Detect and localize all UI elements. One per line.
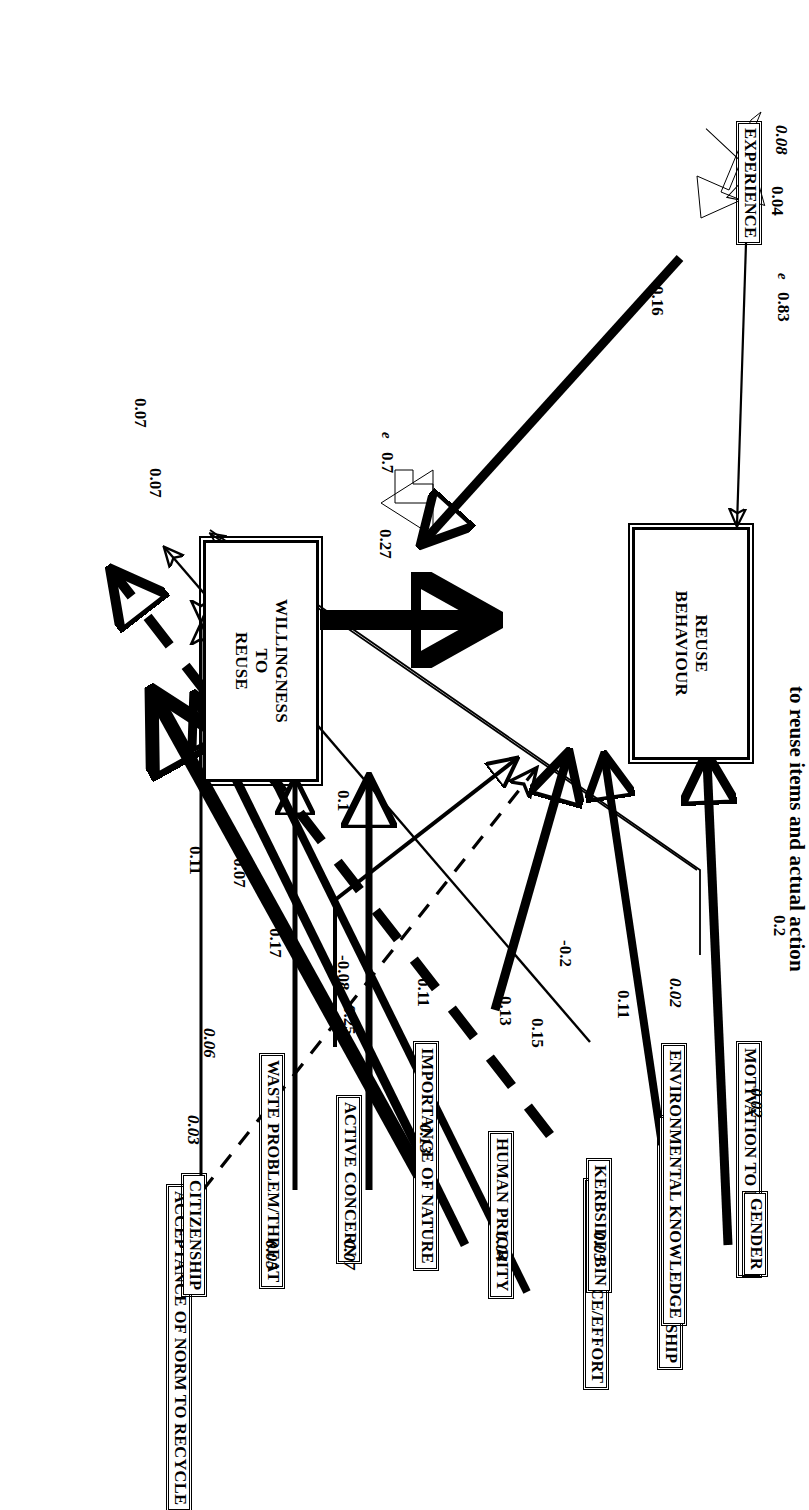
- coef-e-value-willingness: 0.7: [377, 452, 397, 473]
- path-importance-nature-to-behaviour-2: [335, 760, 515, 900]
- coef-motivation-to-respond: 0.2: [769, 915, 789, 936]
- coef-environmental-knowledge: 0.07: [130, 398, 150, 428]
- coef-kerbside-bin: -0.2: [555, 940, 575, 967]
- path-motivation-to-behaviour: [707, 760, 728, 1245]
- coef-environmental-knowledge-italic: 0.02: [665, 978, 685, 1008]
- coef-experience-italic: 0.08: [771, 125, 791, 155]
- coef-e-symbol-willingness: e: [378, 432, 395, 439]
- coef-experience-to-behaviour: 0.04: [767, 186, 787, 216]
- coef-acceptance-norm-dashed: -0.08: [333, 955, 353, 990]
- varbox-importance-of-nature: IMPORTANCE OF NATURE: [416, 1043, 438, 1269]
- coef-e-value-behaviour: 0.83: [773, 292, 793, 322]
- coef-active-concern-italic: 0.07: [339, 1240, 359, 1270]
- construct-reuse-behaviour-label: REUSE BEHAVIOUR: [671, 591, 711, 696]
- path-experience-to-willingness: [425, 258, 680, 540]
- varbox-environmental-knowledge: ENVIRONMENTAL KNOWLEDGE: [664, 1045, 686, 1324]
- coef-acceptance-norm-solid: 0.07: [229, 858, 249, 888]
- coef-human-priority: 0.13: [495, 996, 515, 1026]
- coef-e-symbol-behaviour: e: [774, 273, 791, 280]
- coef-citizenship: 0.11: [185, 846, 205, 875]
- varbox-active-concern: ACTIVE CONCERN: [339, 1097, 361, 1262]
- coef-waste-problem: 0.17: [265, 928, 285, 958]
- coef-acceptance-norm-italic: 0.06: [199, 1028, 219, 1058]
- coef-citizenship-italic: 0.03: [183, 1115, 203, 1145]
- construct-reuse-behaviour: REUSE BEHAVIOUR: [632, 527, 750, 760]
- coef-kerbside-bin-italic: 0.05: [589, 1232, 609, 1262]
- coef-importance-nature-italic: 0.13: [415, 1124, 435, 1154]
- coef-importance-nature: 0.11: [413, 978, 433, 1007]
- coef-gender-italic: 0.02: [746, 1088, 766, 1118]
- varbox-experience: EXPERIENCE: [739, 123, 761, 243]
- coef-experience-to-willingness: 0.16: [647, 286, 667, 316]
- coef-active-concern: 0.25: [339, 1005, 359, 1035]
- disturbance-arrow-reuse-behaviour: [681, 112, 778, 220]
- coef-waste-problem-italic: 0.05: [261, 1240, 281, 1270]
- path-experience-to-behaviour: [737, 212, 747, 525]
- coef-convenience-effort: 0.15: [527, 1018, 547, 1048]
- construct-willingness-to-reuse-label: WILLINGNESS TO REUSE: [231, 599, 291, 723]
- coef-importance-nature-to-behaviour: 0.1: [333, 790, 353, 811]
- construct-willingness-to-reuse: WILLINGNESS TO REUSE: [203, 540, 319, 782]
- coef-total-group-membership: 0.11: [613, 990, 633, 1019]
- disturbance-arrow-willingness: [381, 470, 433, 536]
- varbox-human-priority: HUMAN PRIORITY: [491, 1133, 513, 1297]
- coef-willingness-to-behaviour: 0.27: [375, 529, 395, 559]
- varbox-gender: GENDER: [745, 1193, 767, 1275]
- coef-human-priority-italic: 0.04: [491, 1232, 511, 1262]
- varbox-kerbside-bin: KERBSIDE BIN: [589, 1160, 611, 1291]
- path-group-membership-to-behaviour: [605, 760, 662, 1145]
- coef-gender: 0.07: [145, 468, 165, 498]
- path-kerbside-bin-to-willingness: [115, 575, 550, 1135]
- varbox-citizenship: CITIZENSHIP: [184, 1175, 206, 1295]
